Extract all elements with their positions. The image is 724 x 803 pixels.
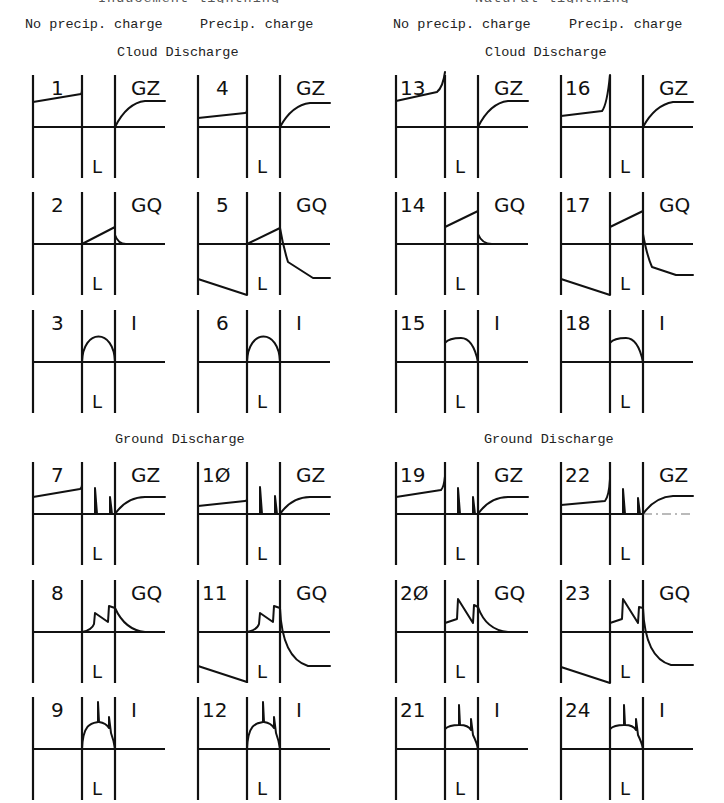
leader-interval-label: L [620,273,630,294]
leader-interval-label: L [92,661,102,682]
panel-number-label: 6 [216,311,229,335]
waveform-trace [33,485,165,514]
waveform-trace [198,103,330,127]
waveform-panel-7: 7GZL [33,462,165,565]
quantity-label: GQ [494,581,525,605]
panel-number-label: 9 [51,698,64,722]
panel-number-label: 7 [51,463,64,487]
leader-interval-label: L [257,543,267,564]
waveform-panel-14: 14GQL [396,192,528,295]
waveform-trace [247,337,280,363]
quantity-label: I [296,311,302,335]
leader-interval-label: L [257,661,267,682]
waveform-panel-6: 6IL [198,310,330,413]
quantity-label: GZ [296,463,325,487]
waveform-panel-9: 9IL [33,697,165,800]
waveform-panel-8: 8GQL [33,580,165,683]
waveform-panel-16: 16GZL [561,75,693,178]
waveform-trace [610,705,643,749]
quantity-label: GQ [494,193,525,217]
quantity-label: GQ [131,581,162,605]
quantity-label: I [659,311,665,335]
panel-number-label: 23 [565,581,590,605]
leader-interval-label: L [455,156,465,177]
quantity-label: I [494,698,500,722]
waveform-panel-1Ø: 1ØGZL [198,462,330,565]
leader-interval-label: L [455,661,465,682]
panel-number-label: 2Ø [400,581,428,605]
waveform-trace [445,211,492,244]
panel-number-label: 5 [216,193,229,217]
leader-interval-label: L [257,273,267,294]
quantity-label: GZ [296,76,325,100]
waveform-panel-12: 12IL [198,697,330,800]
panel-number-label: 18 [565,311,590,335]
leader-interval-label: L [455,273,465,294]
quantity-label: GQ [659,193,690,217]
waveform-panel-21: 21IL [396,697,528,800]
leader-interval-label: L [455,778,465,799]
leader-interval-label: L [620,543,630,564]
quantity-label: GQ [296,193,327,217]
quantity-label: I [296,698,302,722]
panel-number-label: 16 [565,76,590,100]
panel-number-label: 17 [565,193,590,217]
waveform-panel-2Ø: 2ØGQL [396,580,528,683]
quantity-label: I [659,698,665,722]
waveform-trace [82,337,115,363]
quantity-label: I [131,698,137,722]
quantity-label: GZ [659,76,688,100]
leader-interval-label: L [455,391,465,412]
quantity-label: I [494,311,500,335]
panel-number-label: 22 [565,463,590,487]
panel-number-label: 11 [202,581,227,605]
panel-number-label: 21 [400,698,425,722]
panel-number-label: 1Ø [202,463,230,487]
leader-interval-label: L [92,543,102,564]
quantity-label: GQ [659,581,690,605]
leader-interval-label: L [620,391,630,412]
leader-interval-label: L [92,391,102,412]
waveform-panel-5: 5GQL [198,192,330,295]
quantity-label: GQ [131,193,162,217]
waveform-trace [198,487,330,514]
leader-interval-label: L [620,661,630,682]
panel-number-label: 3 [51,311,64,335]
quantity-label: GQ [296,581,327,605]
leader-interval-label: L [257,778,267,799]
waveform-panel-15: 15IL [396,310,528,413]
waveform-diagram: 1GZL2GQL3IL4GZL5GQL6IL7GZL8GQL9IL1ØGZL11… [0,0,724,803]
waveform-trace [82,606,145,632]
waveform-trace [445,338,478,362]
waveform-trace [445,705,478,749]
leader-interval-label: L [92,778,102,799]
leader-interval-label: L [620,778,630,799]
leader-interval-label: L [92,156,102,177]
quantity-label: GZ [131,463,160,487]
waveform-panel-18: 18IL [561,310,693,413]
quantity-label: GZ [659,463,688,487]
quantity-label: I [131,311,137,335]
panel-number-label: 14 [400,193,425,217]
leader-interval-label: L [257,391,267,412]
panel-number-label: 8 [51,581,64,605]
waveform-panel-13: 13GZL [396,72,528,178]
panel-number-label: 1 [51,76,64,100]
quantity-label: GZ [131,76,160,100]
waveform-trace [82,702,115,749]
waveform-panel-3: 3IL [33,310,165,413]
waveform-trace [247,702,280,749]
waveform-panel-19: 19GZL [396,462,528,565]
waveform-panel-1: 1GZL [33,75,165,178]
panel-number-label: 4 [216,76,229,100]
leader-interval-label: L [257,156,267,177]
waveform-panel-22: 22GZL [561,462,693,565]
leader-interval-label: L [620,156,630,177]
panel-number-label: 19 [400,463,425,487]
panel-number-label: 2 [51,193,64,217]
waveform-panel-17: 17GQL [561,192,693,295]
waveform-trace [82,227,126,244]
panel-number-label: 24 [565,698,590,722]
quantity-label: GZ [494,463,523,487]
leader-interval-label: L [455,543,465,564]
